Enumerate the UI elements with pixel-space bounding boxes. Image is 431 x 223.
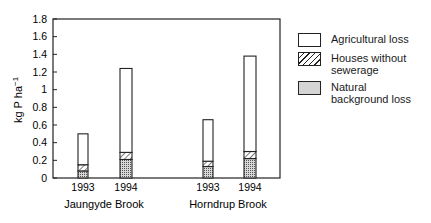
stacked-bar-chart: 00.20.40.60.811.21.41.61.8 kg P ha−11993… [0, 0, 300, 223]
bar-segment-blank [120, 68, 132, 152]
y-tick-label: 1 [41, 83, 47, 95]
x-tick-label: 1993 [196, 181, 220, 193]
x-tick-label: 1993 [71, 181, 95, 193]
bar-stack [244, 56, 256, 178]
y-tick-label: 0.6 [32, 119, 47, 131]
x-tick-label: 1994 [238, 181, 262, 193]
y-tick-label: 1.6 [32, 30, 47, 42]
bar-stack [78, 134, 88, 178]
bar-segment-dotted [120, 159, 132, 178]
bar-segment-dotted [78, 171, 88, 178]
y-axis-label: kg P ha−1 [11, 76, 24, 123]
y-tick-label: 0.8 [32, 101, 47, 113]
legend-item-nat: Natural background loss [298, 81, 426, 105]
y-tick-label: 0.2 [32, 154, 47, 166]
bar-segment-hatched [120, 152, 132, 159]
bar-segment-dotted [203, 167, 213, 178]
legend-item-house: Houses without sewerage [298, 52, 426, 76]
legend-item-agri: Agricultural loss [298, 33, 426, 47]
legend-swatch-nat [298, 81, 321, 95]
bar-stack [203, 120, 213, 178]
bar-segment-hatched [244, 152, 256, 159]
y-tick-label: 0 [41, 172, 47, 184]
plot-area: 00.20.40.60.811.21.41.61.8 [32, 13, 280, 184]
legend-label: Agricultural loss [331, 33, 426, 45]
legend-swatch-agri [298, 33, 321, 47]
x-tick-label: 1994 [114, 181, 138, 193]
bar-segment-hatched [78, 165, 88, 171]
y-tick-label: 0.4 [32, 136, 47, 148]
legend-label: Houses without sewerage [331, 52, 426, 76]
legend-label: Natural background loss [331, 81, 426, 105]
bar-segment-blank [203, 120, 213, 162]
group-label: Horndrup Brook [189, 198, 267, 210]
y-tick-label: 1.2 [32, 66, 47, 78]
group-label: Jaungyde Brook [64, 198, 144, 210]
bars [78, 56, 256, 178]
bar-segment-dotted [244, 159, 256, 178]
bar-segment-blank [244, 56, 256, 151]
axis-labels: kg P ha−11993199419931994Jaungyde BrookH… [11, 76, 267, 210]
y-tick-label: 1.8 [32, 13, 47, 25]
bar-stack [120, 68, 132, 178]
bar-segment-blank [78, 134, 88, 165]
y-tick-label: 1.4 [32, 48, 47, 60]
legend-swatch-house [298, 52, 321, 66]
bar-segment-hatched [203, 161, 213, 166]
